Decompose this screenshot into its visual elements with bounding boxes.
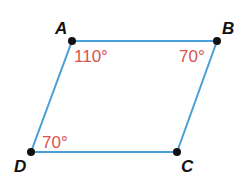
- angle-b-measure: 70°: [179, 47, 205, 66]
- vertex-b-point: [213, 37, 221, 45]
- vertex-b-label: B: [222, 19, 234, 38]
- angle-d-measure: 70°: [42, 133, 68, 152]
- vertex-d-label: D: [14, 157, 26, 176]
- vertex-c-point: [173, 148, 181, 156]
- vertex-a-point: [68, 37, 76, 45]
- vertex-c-label: C: [181, 157, 194, 176]
- diagram-svg: A B C D 110° 70° 70°: [0, 0, 247, 183]
- angle-a-measure: 110°: [74, 47, 108, 66]
- vertex-d-point: [27, 148, 35, 156]
- parallelogram-diagram: A B C D 110° 70° 70°: [0, 0, 247, 183]
- vertex-a-label: A: [54, 19, 67, 38]
